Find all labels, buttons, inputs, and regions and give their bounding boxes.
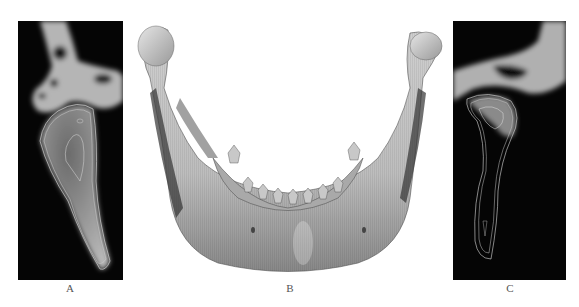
panel-a-ct-image	[18, 21, 123, 280]
panel-a-label: A	[50, 282, 90, 294]
panel-b-3d-mandible	[128, 18, 448, 278]
panel-c-label: C	[490, 282, 530, 294]
panel-b-label: B	[270, 282, 310, 294]
panel-c-ct-image	[453, 21, 566, 280]
